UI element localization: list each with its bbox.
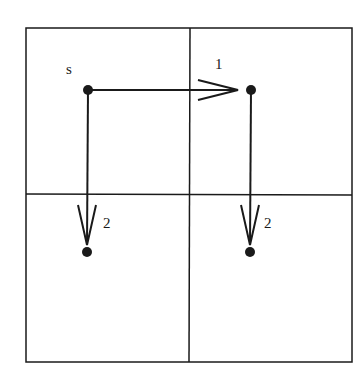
edge-s-to-2a	[87, 90, 88, 245]
nodes	[82, 85, 256, 257]
node-s	[83, 85, 93, 95]
node-1	[246, 85, 256, 95]
node-2b	[245, 247, 255, 257]
node-label-1: 1	[215, 57, 223, 72]
node-label-2b: 2	[264, 216, 272, 231]
grid-diagram	[0, 0, 363, 382]
node-label-2a: 2	[103, 216, 111, 231]
edge-1-to-2b	[250, 90, 251, 245]
grid-horizontal-divider	[26, 194, 352, 195]
node-label-s: s	[66, 62, 72, 77]
node-2a	[82, 247, 92, 257]
